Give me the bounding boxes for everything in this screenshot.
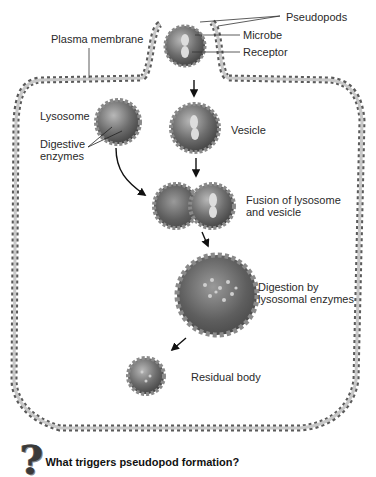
label-vesicle: Vesicle [231, 124, 266, 137]
question-text: What triggers pseudopod formation? [45, 456, 239, 468]
lysosome [88, 100, 140, 147]
question-mark-icon: ? [20, 442, 43, 477]
digestion [177, 255, 257, 335]
arrow-digestion-to-residual [172, 338, 186, 350]
phagocytosis-diagram [0, 0, 376, 477]
label-residual-body: Residual body [191, 371, 261, 384]
residual-body [128, 358, 164, 394]
label-digestive-enzymes-2: enzymes [40, 150, 84, 163]
label-microbe: Microbe [243, 29, 282, 42]
label-fusion-2: and vesicle [246, 206, 301, 219]
arrow-fusion-to-digestion [202, 232, 208, 246]
label-receptor: Receptor [243, 46, 288, 59]
arrow-lysosome-to-fusion [116, 148, 145, 195]
label-digestion-2: lysosomal enzymes [258, 293, 354, 306]
label-plasma-membrane: Plasma membrane [51, 33, 143, 46]
fusion-lysosome-vesicle [154, 184, 234, 228]
vesicle [171, 104, 219, 152]
question-prompt: ? What triggers pseudopod formation? [20, 442, 239, 477]
label-pseudopods: Pseudopods [286, 11, 347, 24]
label-lysosome: Lysosome [40, 110, 90, 123]
